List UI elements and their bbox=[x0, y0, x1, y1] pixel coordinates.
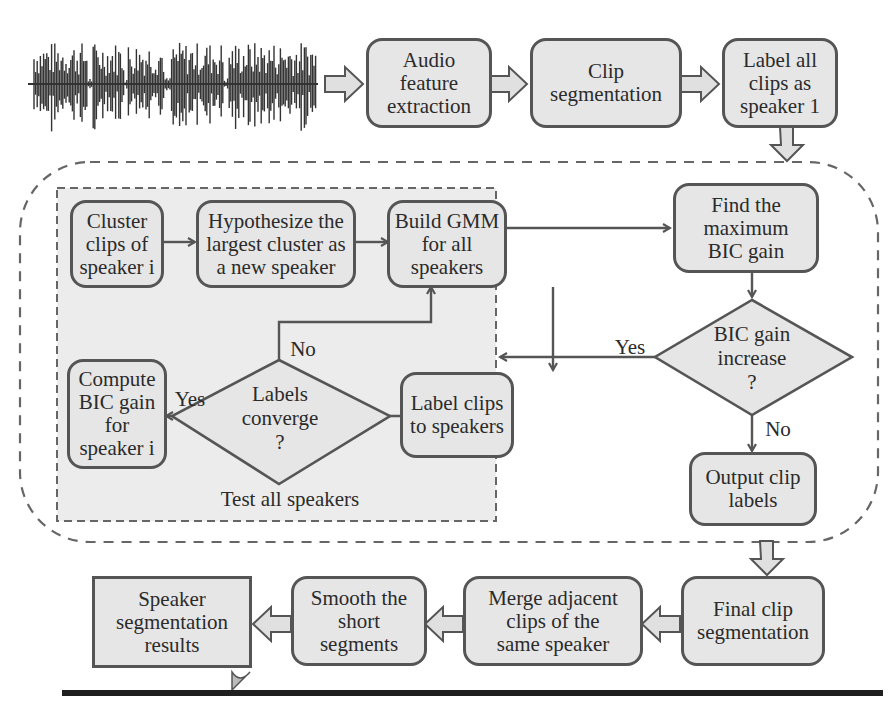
bottom-rule bbox=[62, 690, 883, 696]
label-clips-node[interactable]: Label clips to speakers bbox=[400, 372, 514, 458]
speaker-segmentation-results-document[interactable]: Speaker segmentation results bbox=[92, 576, 252, 668]
cluster-clips-node[interactable]: Cluster clips of speaker i bbox=[70, 200, 164, 288]
build-gmm-node[interactable]: Build GMM for all speakers bbox=[387, 200, 507, 288]
clip-segmentation-node[interactable]: Clip segmentation bbox=[530, 38, 682, 128]
converge-no-label: No bbox=[283, 338, 323, 361]
output-clip-labels-node[interactable]: Output clip labels bbox=[689, 452, 817, 526]
find-max-bic-node[interactable]: Find the maximum BIC gain bbox=[673, 183, 819, 273]
label-all-clips-node[interactable]: Label all clips as speaker 1 bbox=[722, 38, 838, 128]
hypothesize-speaker-node[interactable]: Hypothesize the largest cluster as a new… bbox=[196, 200, 356, 288]
document-fold-icon bbox=[232, 672, 250, 690]
bic-no-label: No bbox=[758, 418, 798, 441]
bic-increase-text: BIC gain increase ? bbox=[682, 318, 822, 398]
test-all-speakers-caption: Test all speakers bbox=[220, 488, 360, 511]
smooth-short-segments-node[interactable]: Smooth the short segments bbox=[291, 576, 427, 666]
converge-yes-label: Yes bbox=[170, 388, 210, 411]
labels-converge-text: Labels converge ? bbox=[200, 372, 360, 464]
audio-feature-extraction-node[interactable]: Audio feature extraction bbox=[366, 38, 492, 128]
audio-waveform-icon bbox=[28, 43, 318, 132]
merge-adjacent-clips-node[interactable]: Merge adjacent clips of the same speaker bbox=[463, 576, 643, 666]
bic-yes-label: Yes bbox=[610, 336, 650, 359]
compute-bic-gain-node[interactable]: Compute BIC gain for speaker i bbox=[67, 359, 167, 469]
final-clip-segmentation-node[interactable]: Final clip segmentation bbox=[681, 576, 825, 666]
